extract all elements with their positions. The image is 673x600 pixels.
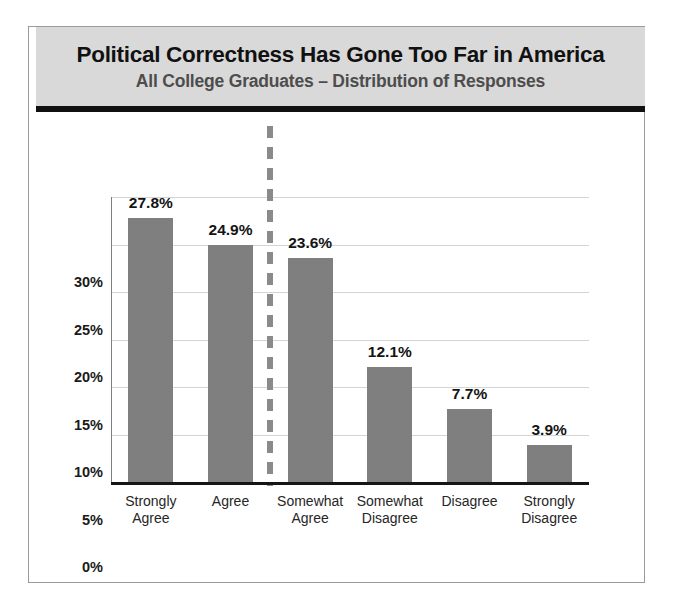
median-dashed-line	[267, 126, 273, 486]
x-axis-category-label: Agree	[185, 493, 277, 510]
plot-area: 27.8%24.9%23.6%12.1%7.7%3.9% StronglyAgr…	[111, 112, 589, 583]
y-axis-tick-label: 30%	[57, 274, 103, 290]
gridline	[111, 340, 589, 341]
bar-value-label: 12.1%	[352, 343, 428, 361]
y-axis-tick-label: 0%	[57, 559, 103, 575]
bar-value-label: 23.6%	[272, 234, 348, 252]
x-axis-category-label: SomewhatDisagree	[344, 493, 436, 526]
bar	[128, 218, 173, 482]
chart-subtitle: All College Graduates – Distribution of …	[136, 72, 545, 90]
bar-value-label: 7.7%	[432, 385, 508, 403]
bar	[527, 445, 572, 482]
bar-value-label: 24.9%	[193, 221, 269, 239]
x-axis-line	[111, 482, 589, 485]
gridline	[111, 387, 589, 388]
y-axis-tick-label: 20%	[57, 369, 103, 385]
bar-value-label: 27.8%	[113, 194, 189, 212]
chart-figure: Political Correctness Has Gone Too Far i…	[28, 26, 645, 583]
x-axis-category-label: SomewhatAgree	[264, 493, 356, 526]
y-axis-tick-label: 5%	[57, 512, 103, 528]
page-title: Political Correctness Has Gone Too Far i…	[77, 43, 605, 67]
gridline	[111, 292, 589, 293]
x-axis-category-label: StronglyDisagree	[503, 493, 595, 526]
x-axis-category-label: Disagree	[424, 493, 516, 510]
y-axis-tick-label: 25%	[57, 322, 103, 338]
y-axis-tick-labels: 0%5%10%15%20%25%30%	[57, 112, 103, 583]
bar	[367, 367, 412, 482]
bar-value-label: 3.9%	[511, 421, 587, 439]
plot-wrapper: 0%5%10%15%20%25%30% 27.8%24.9%23.6%12.1%…	[29, 112, 644, 583]
y-axis-tick-label: 15%	[57, 417, 103, 433]
bar	[208, 245, 253, 482]
bar	[288, 258, 333, 482]
gridline	[111, 245, 589, 246]
bar	[447, 409, 492, 482]
y-axis-tick-label: 10%	[57, 464, 103, 480]
y-axis-line	[111, 197, 112, 483]
chart-header-band: Political Correctness Has Gone Too Far i…	[36, 27, 645, 106]
x-axis-category-label: StronglyAgree	[105, 493, 197, 526]
